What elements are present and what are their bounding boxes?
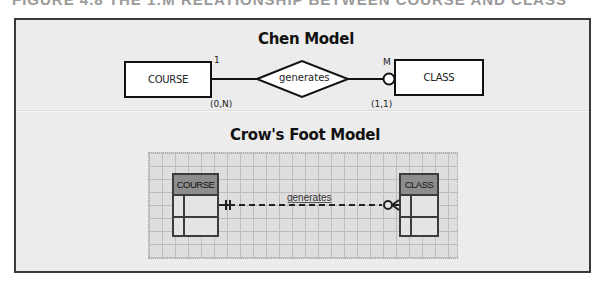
- optional-circle-icon: [384, 201, 392, 209]
- crows-foot-relationship-label: generates: [287, 192, 331, 203]
- crows-foot-connectors: [0, 0, 606, 286]
- figure-stage: FIGURE 4.8 THE 1:M RELATIONSHIP BETWEEN …: [0, 0, 606, 286]
